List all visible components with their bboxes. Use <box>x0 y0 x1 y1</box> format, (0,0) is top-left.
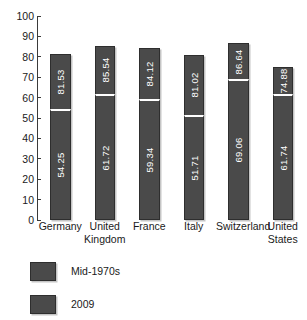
x-axis-label-line: Kingdom <box>83 233 128 246</box>
legend-swatch <box>30 295 56 314</box>
bar-segment-2009[interactable]: 84.12 <box>139 48 160 99</box>
bar-value-label: 59.34 <box>144 148 155 173</box>
y-axis-tick-label: 40 <box>22 132 34 144</box>
bar-slot: 86.6469.06 <box>216 16 261 220</box>
x-axis-label: Switzerland <box>216 220 261 233</box>
x-axis-label-line: States <box>261 233 306 246</box>
x-axis-label-line: United <box>83 220 128 233</box>
bar-value-label: 54.25 <box>55 153 66 178</box>
x-axis-label-line: France <box>127 220 172 233</box>
bar-stack[interactable]: 85.5461.72 <box>95 46 116 221</box>
x-axis-label: Italy <box>172 220 217 233</box>
bar-value-label: 51.71 <box>188 155 199 180</box>
legend-swatch <box>30 262 56 281</box>
bar-slot: 74.8861.74 <box>261 16 306 220</box>
x-axis-label: Germany <box>38 220 83 233</box>
bar-segment-2009[interactable]: 85.54 <box>95 46 116 95</box>
bar-slot: 81.5354.25 <box>38 16 83 220</box>
y-axis-tick-label: 100 <box>16 10 34 22</box>
y-axis-tick-label: 90 <box>22 30 34 42</box>
x-axis-labels: GermanyUnitedKingdomFranceItalySwitzerla… <box>38 220 305 254</box>
y-axis-tick-label: 70 <box>22 71 34 83</box>
plot-area: 1009080706050403020100 81.5354.2585.5461… <box>0 8 307 220</box>
bar-stack[interactable]: 81.0251.71 <box>184 55 205 220</box>
x-axis-label-line: Italy <box>172 220 217 233</box>
bar-segment-2009[interactable]: 81.02 <box>184 55 205 115</box>
bars-layer: 81.5354.2585.5461.7284.1259.3481.0251.71… <box>38 16 305 220</box>
bar-value-label: 61.74 <box>277 145 288 170</box>
y-axis-tick-label: 10 <box>22 194 34 206</box>
bar-value-label: 81.53 <box>55 70 66 95</box>
y-axis-tick-label: 20 <box>22 173 34 185</box>
bar-stack[interactable]: 86.6469.06 <box>228 43 249 220</box>
x-axis-label: France <box>127 220 172 233</box>
bar-stack[interactable]: 74.8861.74 <box>273 67 294 220</box>
x-axis-label-line: Switzerland <box>216 220 261 233</box>
bar-segment-mid-1970s[interactable]: 51.71 <box>184 115 205 220</box>
bar-segment-mid-1970s[interactable]: 61.72 <box>95 94 116 220</box>
bar-value-label: 86.64 <box>233 49 244 74</box>
y-axis-tick-label: 0 <box>28 214 34 226</box>
y-axis-tick-label: 60 <box>22 92 34 104</box>
legend-label: Mid-1970s <box>71 265 120 277</box>
bar-stack[interactable]: 84.1259.34 <box>139 48 160 220</box>
bar-segment-2009[interactable]: 74.88 <box>273 67 294 94</box>
bar-segment-mid-1970s[interactable]: 69.06 <box>228 79 249 220</box>
bar-value-label: 61.72 <box>99 145 110 170</box>
legend-label: 2009 <box>71 298 94 310</box>
bar-stack[interactable]: 81.5354.25 <box>50 54 71 220</box>
bar-value-label: 74.88 <box>277 69 288 94</box>
bar-segment-2009[interactable]: 86.64 <box>228 43 249 79</box>
y-axis-tick-label: 80 <box>22 51 34 63</box>
legend-item[interactable]: 2009 <box>30 293 250 315</box>
legend-item[interactable]: Mid-1970s <box>30 260 250 282</box>
bar-value-label: 69.06 <box>233 138 244 163</box>
bar-slot: 85.5461.72 <box>83 16 128 220</box>
bar-value-label: 81.02 <box>188 73 199 98</box>
bar-slot: 81.0251.71 <box>172 16 217 220</box>
bar-segment-mid-1970s[interactable]: 61.74 <box>273 94 294 220</box>
bar-value-label: 84.12 <box>144 62 155 87</box>
chart-legend: Mid-1970s2009 <box>30 260 250 320</box>
x-axis-label-line: United <box>261 220 306 233</box>
bar-segment-2009[interactable]: 81.53 <box>50 54 71 110</box>
y-axis-tick-label: 50 <box>22 112 34 124</box>
bar-segment-mid-1970s[interactable]: 54.25 <box>50 109 71 220</box>
y-axis-tick-label: 30 <box>22 153 34 165</box>
x-axis-label: UnitedStates <box>261 220 306 246</box>
bar-value-label: 85.54 <box>99 58 110 83</box>
x-axis-label: UnitedKingdom <box>83 220 128 246</box>
bar-segment-mid-1970s[interactable]: 59.34 <box>139 99 160 220</box>
x-axis-label-line: Germany <box>38 220 83 233</box>
bar-slot: 84.1259.34 <box>127 16 172 220</box>
